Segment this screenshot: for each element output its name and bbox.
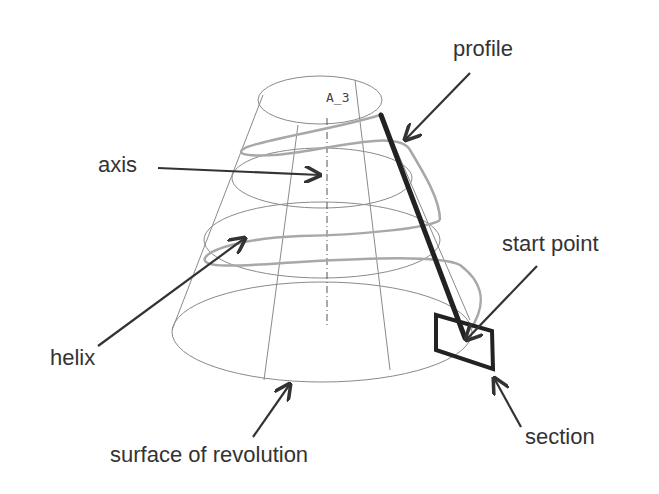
helix-curve [205,115,481,330]
profile-arrow [405,73,470,140]
generator-line-front [264,125,298,380]
profile-label: profile [453,38,513,60]
start-point-label: start point [502,233,599,255]
helix-label: helix [50,347,95,369]
generator-line-left [172,95,263,330]
profile-line [381,115,465,338]
top-ellipse [258,76,382,124]
surface-of-revolution-label: surface of revolution [110,444,308,466]
axis-label: axis [98,154,137,176]
axis-tag-label: A_3 [326,91,349,104]
bottom-ellipse [172,282,472,382]
upper-ellipse [232,148,412,208]
axis-arrow [158,168,320,175]
section-arrow [494,378,521,427]
helix-arrow [98,238,245,346]
surface-arrow [253,384,290,437]
start-point-arrow [466,266,537,340]
surface-of-revolution-wireframe [172,76,472,382]
section-label: section [525,426,595,448]
